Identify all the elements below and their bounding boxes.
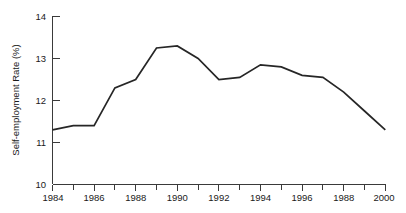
data-series-line (53, 46, 386, 130)
x-tick-label-1986: 1986 (84, 192, 105, 203)
x-tick-label-1984: 1984 (42, 192, 63, 203)
x-tick-label-1996: 1996 (292, 192, 313, 203)
x-tick-label-1994: 1994 (250, 192, 271, 203)
x-tick-label-1988: 1988 (125, 192, 146, 203)
y-axis-title: Self-employment Rate (%) (10, 44, 21, 155)
self-employment-rate-line-chart: 14 13 12 11 10 (0, 0, 406, 213)
x-axis-tick-labels: 1984 1986 1988 1990 1992 1994 1996 1988 … (42, 192, 394, 203)
x-tick-label-1998: 1988 (333, 192, 354, 203)
x-axis-ticks (53, 185, 386, 191)
y-tick-label-13: 13 (35, 53, 46, 64)
y-tick-label-10: 10 (35, 179, 46, 190)
y-axis-tick-labels: 14 13 12 11 10 (35, 11, 46, 190)
x-tick-label-2000: 2000 (373, 192, 394, 203)
y-tick-label-11: 11 (36, 137, 46, 148)
chart-container: 14 13 12 11 10 (0, 0, 406, 213)
x-tick-label-1992: 1992 (208, 192, 229, 203)
y-tick-label-12: 12 (35, 95, 46, 106)
y-axis-ticks (53, 17, 60, 185)
y-tick-label-14: 14 (35, 11, 46, 22)
x-tick-label-1990: 1990 (167, 192, 188, 203)
